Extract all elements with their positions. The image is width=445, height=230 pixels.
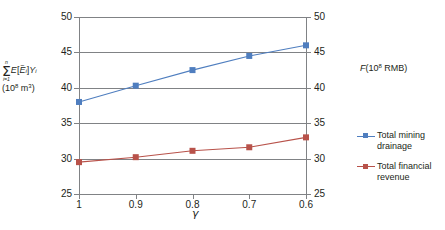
y-tick-right-30 — [306, 159, 311, 160]
data-point-marker[interactable] — [190, 67, 196, 73]
x-axis-label-0.7: 0.7 — [242, 199, 256, 210]
y-axis-right-label-25: 25 — [314, 188, 325, 199]
legend-item-label: Total financial revenue — [377, 161, 432, 183]
legend-item-total-financial-revenue[interactable]: Total financial revenue — [357, 161, 445, 183]
legend-label-line1: Total financial — [377, 161, 432, 171]
y-axis-left-label-50: 50 — [61, 11, 72, 22]
y-axis-left-title-expression: n Σ i=1 E[~Ei]Yi — [2, 60, 64, 82]
legend-item-total-mining-drainage[interactable]: Total mining drainage — [357, 130, 445, 152]
tilde-accent: ~ — [20, 62, 24, 69]
y-axis-right-label-30: 30 — [314, 153, 325, 164]
legend-color-key-red — [357, 162, 375, 172]
data-series-layer — [79, 17, 306, 194]
y-tick-right-35 — [306, 123, 311, 124]
summation-lower-limit: i=1 — [3, 77, 10, 82]
legend-marker-square — [363, 164, 368, 169]
units-close-paren: ) — [32, 83, 35, 93]
data-point-marker[interactable] — [246, 53, 252, 59]
legend-label-line2: revenue — [377, 172, 410, 182]
data-point-marker[interactable] — [76, 159, 82, 165]
x-axis-label-1: 1 — [76, 199, 82, 210]
data-point-marker[interactable] — [303, 42, 309, 48]
x-axis-label-0.9: 0.9 — [129, 199, 143, 210]
e-tilde-variable: ~E — [19, 66, 25, 76]
legend-color-key-blue — [357, 131, 375, 141]
data-point-marker[interactable] — [246, 144, 252, 150]
y-axis-left-units: (108 m3) — [2, 83, 64, 94]
chart-figure: n Σ i=1 E[~Ei]Yi (108 m3) F(108 RMB) 50 … — [0, 0, 445, 230]
y-axis-right-label-45: 45 — [314, 46, 325, 57]
data-point-marker[interactable] — [303, 134, 309, 140]
y-axis-right-title: F(108 RMB) — [360, 63, 407, 73]
y-axis-right-label-40: 40 — [314, 82, 325, 93]
legend-item-label: Total mining drainage — [377, 130, 425, 152]
y-axis-left-label-30: 30 — [61, 153, 72, 164]
units-tail: m — [18, 83, 28, 93]
y-axis-left-title: n Σ i=1 E[~Ei]Yi (108 m3) — [2, 60, 64, 94]
data-point-marker[interactable] — [133, 83, 139, 89]
y-axis-left-label-35: 35 — [61, 117, 72, 128]
data-point-marker[interactable] — [190, 148, 196, 154]
y-tick-right-45 — [306, 52, 311, 53]
right-units-prefix: (10 — [366, 63, 379, 73]
data-point-marker[interactable] — [133, 154, 139, 160]
y-axis-left-label-40: 40 — [61, 82, 72, 93]
x-axis-label-0.6: 0.6 — [299, 199, 313, 210]
series-line-0 — [79, 45, 306, 102]
chart-legend: Total mining drainage Total financial re… — [357, 130, 445, 192]
summation-symbol: n Σ i=1 — [2, 60, 11, 82]
data-point-marker[interactable] — [76, 99, 82, 105]
y-axis-left-label-25: 25 — [61, 188, 72, 199]
legend-marker-square — [363, 133, 368, 138]
x-axis-title: γ — [192, 207, 199, 220]
legend-label-line2: drainage — [377, 141, 412, 151]
y-axis-right-label-50: 50 — [314, 11, 325, 22]
plot-area: 50 50 45 45 40 40 35 35 30 30 25 25 1 — [79, 17, 306, 194]
units-prefix: (10 — [2, 83, 15, 93]
y-subscript: i — [35, 68, 36, 74]
y-tick-right-50 — [306, 17, 311, 18]
y-axis-right-label-35: 35 — [314, 117, 325, 128]
legend-label-line1: Total mining — [377, 130, 425, 140]
right-units-tail: RMB) — [382, 63, 408, 73]
y-axis-left-label-45: 45 — [61, 46, 72, 57]
y-tick-right-40 — [306, 88, 311, 89]
